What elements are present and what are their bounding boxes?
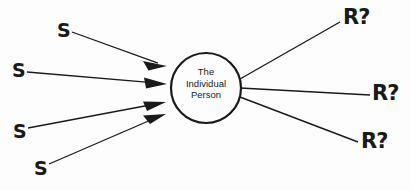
node-label-line-2: Individual <box>172 78 240 90</box>
input-arrow-2 <box>27 72 167 89</box>
stimulus-label-1: S <box>57 21 70 40</box>
individual-person-label: The Individual Person <box>172 66 240 101</box>
stimulus-label-3: S <box>13 122 26 141</box>
output-line-1 <box>240 22 340 79</box>
response-label-1: R? <box>343 7 369 28</box>
node-label-line-3: Person <box>172 89 240 101</box>
sor-diagram: The Individual Person S S S S R? R? R? <box>0 0 411 190</box>
stimulus-label-2: S <box>12 61 25 80</box>
node-label-line-1: The <box>172 66 240 78</box>
input-arrow-4 <box>49 114 166 164</box>
input-arrow-1 <box>72 32 167 71</box>
input-arrows-group <box>27 32 167 164</box>
input-arrow-3 <box>28 102 166 129</box>
stimulus-label-4: S <box>34 159 47 178</box>
response-label-2: R? <box>372 83 398 104</box>
response-label-3: R? <box>361 131 387 152</box>
output-lines-group <box>240 22 370 142</box>
output-line-3 <box>240 97 358 142</box>
output-line-2 <box>240 88 370 95</box>
